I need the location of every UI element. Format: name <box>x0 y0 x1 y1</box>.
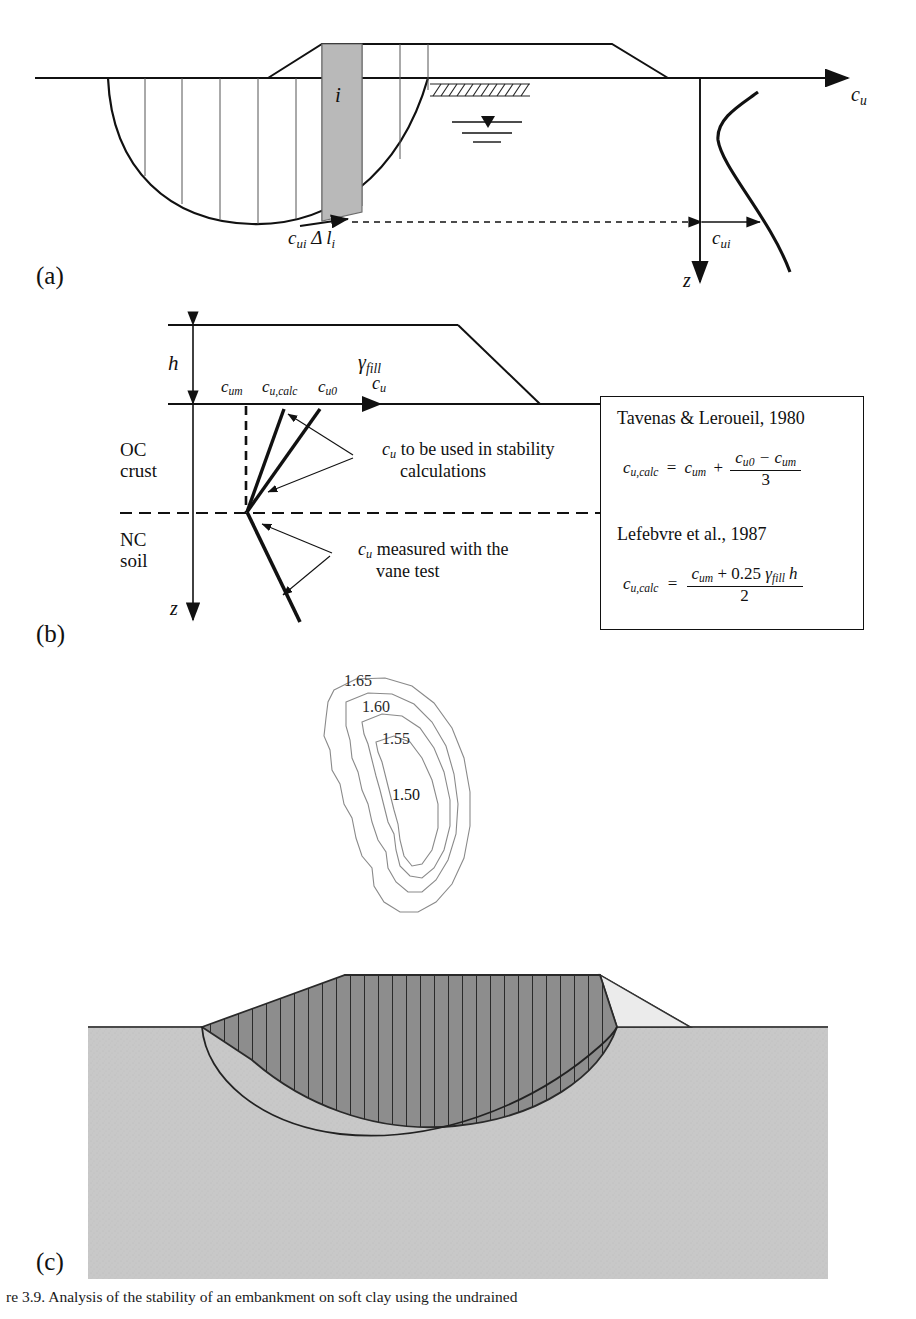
panel-b-leader-stability-1 <box>288 414 353 455</box>
panel-c-contour-label-1-50: 1.50 <box>392 786 420 803</box>
panel-a-slice-lines <box>145 44 428 224</box>
formula-expression-2: cu,calc = cum + 0.25 γfill h 2 <box>623 565 803 605</box>
panel-b-h-label: h <box>168 352 179 375</box>
panel-b-leader-vane-2 <box>283 556 330 595</box>
panel-b-leader-vane-1 <box>262 524 332 553</box>
panel-c-contour-label-1-65: 1.65 <box>344 672 372 689</box>
panel-c-contour-label-1-55: 1.55 <box>382 730 410 747</box>
panel-a-slice-i <box>322 44 362 221</box>
figure-3-9: (a) i cui Δ li cu z cui (b) h γfill cum … <box>0 0 916 1319</box>
formula-reference-1: Tavenas & Leroueil, 1980 <box>617 409 805 428</box>
formula-expression-1: cu,calc = cum + cu0 − cum 3 <box>623 449 801 489</box>
panel-label-c: (c) <box>36 1248 64 1276</box>
panel-b-cu0-label: cu0 <box>318 378 337 399</box>
panel-b-formula-box: Tavenas & Leroueil, 1980 cu,calc = cum +… <box>600 396 864 630</box>
panel-a-slice-force-label: cui Δ li <box>288 228 335 251</box>
panel-a-cu-axis-label: cu <box>851 84 867 108</box>
figure-vector-layer <box>0 0 916 1319</box>
panel-label-a: (a) <box>36 262 64 290</box>
panel-a-slip-surface <box>108 78 428 224</box>
panel-b-cucalc-line <box>247 409 284 512</box>
panel-b-cu0-line <box>247 409 320 512</box>
panel-b-annotation-vane: cu measured with the vane test <box>358 540 509 581</box>
panel-label-b: (b) <box>36 620 65 648</box>
panel-b-layer-oc-crust: OC crust <box>120 440 157 481</box>
panel-b-cucalc-label: cu,calc <box>262 378 297 399</box>
panel-b-cum-label: cum <box>221 378 243 399</box>
figure-caption: re 3.9. Analysis of the stability of an … <box>6 1288 916 1306</box>
panel-b-embankment-slope <box>458 325 540 404</box>
panel-b-cu-axis-label: cu <box>372 374 386 396</box>
water-table-symbol <box>452 116 522 142</box>
panel-a-z-axis-label: z <box>683 270 691 292</box>
ground-hatch <box>430 84 530 96</box>
panel-b-annotation-stability: cu to be used in stability calculations <box>382 440 555 481</box>
panel-a-cui-label: cui <box>712 228 730 251</box>
panel-b-z-axis-label: z <box>170 598 178 620</box>
panel-b-layer-nc-soil: NC soil <box>120 530 147 571</box>
formula-reference-2: Lefebvre et al., 1987 <box>617 525 766 544</box>
panel-a-slice-index-label: i <box>335 84 341 107</box>
panel-c-contour-label-1-60: 1.60 <box>362 698 390 715</box>
